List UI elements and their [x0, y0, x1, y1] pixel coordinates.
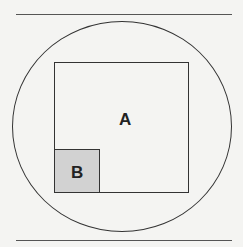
top-divider: [16, 14, 232, 15]
bottom-divider: [16, 240, 232, 241]
set-b-label: B: [71, 163, 83, 183]
set-a-label: A: [119, 110, 131, 130]
